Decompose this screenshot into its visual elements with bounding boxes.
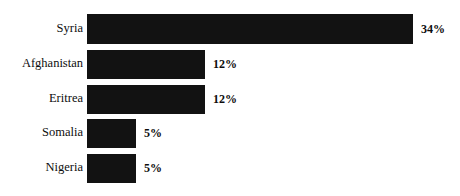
category-label-eritrea: Eritrea	[0, 92, 83, 105]
category-label-somalia: Somalia	[0, 126, 83, 139]
value-label-eritrea: 12%	[213, 93, 237, 105]
value-label-nigeria: 5%	[144, 162, 162, 174]
bar-afghanistan	[87, 50, 205, 79]
category-label-syria: Syria	[0, 22, 83, 35]
value-label-somalia: 5%	[144, 127, 162, 139]
plot-area: Syria34%Afghanistan12%Eritrea12%Somalia5…	[0, 0, 460, 196]
category-label-nigeria: Nigeria	[0, 161, 83, 174]
bar-somalia	[87, 119, 136, 148]
value-label-afghanistan: 12%	[213, 58, 237, 70]
bar-chart: Syria34%Afghanistan12%Eritrea12%Somalia5…	[0, 0, 460, 196]
bar-syria	[87, 14, 413, 44]
value-label-syria: 34%	[421, 23, 445, 35]
category-label-afghanistan: Afghanistan	[0, 57, 83, 70]
bar-eritrea	[87, 85, 205, 114]
bar-nigeria	[87, 154, 136, 183]
